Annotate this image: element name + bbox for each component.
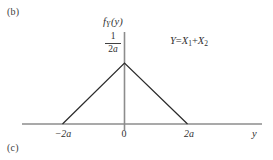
y-axis-title-argument: (y) bbox=[111, 16, 123, 27]
x-axis-title: y bbox=[252, 128, 257, 139]
peak-denominator: 2a bbox=[104, 44, 122, 55]
equation-term2-subscript: 2 bbox=[204, 39, 208, 48]
figure-container: (b) fY (y) 1 2a Y=X1+X2 −2a 0 2a y (c) bbox=[0, 0, 273, 160]
plot-canvas bbox=[0, 0, 273, 160]
x-tick-text-right: 2a bbox=[184, 128, 194, 139]
peak-numerator: 1 bbox=[104, 32, 122, 43]
panel-label-c: (c) bbox=[7, 142, 19, 153]
x-tick-label-origin: 0 bbox=[118, 128, 130, 139]
x-tick-text-left: −2a bbox=[55, 128, 72, 139]
x-tick-label-positive-2a: 2a bbox=[179, 128, 199, 139]
peak-denominator-variable: a bbox=[113, 44, 118, 54]
peak-value-label: 1 2a bbox=[104, 32, 122, 55]
y-axis-title: fY (y) bbox=[103, 16, 123, 29]
equation-annotation: Y=X1+X2 bbox=[170, 35, 208, 48]
x-tick-label-negative-2a: −2a bbox=[52, 128, 74, 139]
